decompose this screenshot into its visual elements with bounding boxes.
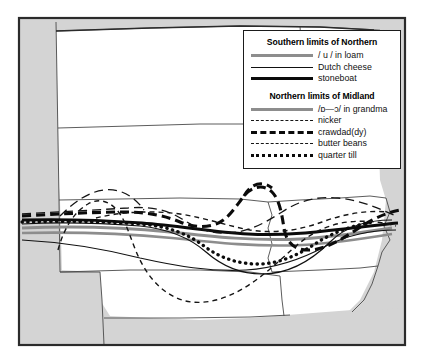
- legend-swatch-u-in-loam: [251, 50, 313, 62]
- legend-label-grandma: /ɒ—ɔ/ in grandma: [318, 104, 387, 116]
- map-legend: Southern limits of Northern / u / in loa…: [243, 30, 401, 169]
- legend-label-dutch-cheese: Dutch cheese: [318, 62, 372, 74]
- legend-label-crawdad: crawdad(dy): [318, 127, 366, 139]
- legend-heading-northern: Southern limits of Northern: [251, 37, 393, 48]
- legend-swatch-grandma: [251, 104, 313, 116]
- legend-swatch-stoneboat: [251, 73, 313, 85]
- legend-item-grandma: /ɒ—ɔ/ in grandma: [251, 104, 393, 116]
- legend-label-quarter-till: quarter till: [318, 150, 357, 162]
- legend-item-butter-beans: butter beans: [251, 138, 393, 150]
- dialect-map-figure: Southern limits of Northern / u / in loa…: [0, 0, 423, 359]
- legend-item-quarter-till: quarter till: [251, 150, 393, 162]
- legend-item-stoneboat: stoneboat: [251, 73, 393, 85]
- legend-label-stoneboat: stoneboat: [318, 73, 357, 85]
- legend-item-dutch-cheese: Dutch cheese: [251, 62, 393, 74]
- legend-swatch-nicker: [251, 115, 313, 127]
- legend-label-butter-beans: butter beans: [318, 138, 367, 150]
- legend-item-nicker: nicker: [251, 115, 393, 127]
- legend-item-u-in-loam: / u / in loam: [251, 50, 393, 62]
- legend-label-nicker: nicker: [318, 115, 341, 127]
- legend-swatch-butter-beans: [251, 138, 313, 150]
- legend-label-u-in-loam: / u / in loam: [318, 50, 363, 62]
- legend-heading-midland: Northern limits of Midland: [251, 91, 393, 102]
- legend-swatch-quarter-till: [251, 150, 313, 162]
- legend-item-crawdad: crawdad(dy): [251, 127, 393, 139]
- legend-swatch-dutch-cheese: [251, 62, 313, 74]
- legend-swatch-crawdad: [251, 127, 313, 139]
